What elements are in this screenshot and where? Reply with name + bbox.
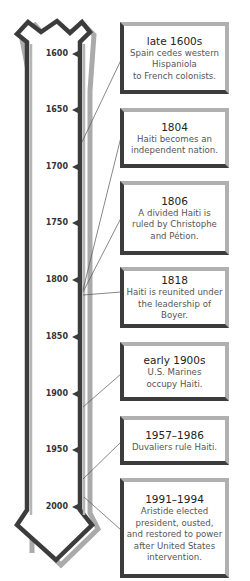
tick-label-1850: 1850 [38,332,68,342]
event-description: A divided Haiti is ruled by Christophe a… [126,208,223,243]
event-date: 1818 [126,274,223,287]
event-box-early-1900s: early 1900s U.S. Marines occupy Haiti. [120,342,229,401]
event-description: U.S. Marines occupy Haiti. [126,367,223,390]
event-box-1806: 1806 A divided Haiti is ruled by Christo… [120,181,229,255]
event-date: 1806 [126,195,223,208]
event-description: Haiti becomes an independent nation. [126,134,223,157]
tick-label-1900: 1900 [38,389,68,399]
event-description: Duvaliers rule Haiti. [126,442,223,454]
event-date: early 1900s [126,354,223,367]
event-description: Spain cedes western Hispaniola to French… [126,48,223,83]
event-box-late-1600s: late 1600s Spain cedes western Hispaniol… [120,22,229,94]
event-box-1804: 1804 Haiti becomes an independent nation… [120,108,229,168]
event-date: late 1600s [126,35,223,48]
tick-label-1750: 1750 [38,218,68,228]
event-box-1991-1994: 1991–1994 Aristide elected president, ou… [120,478,229,578]
event-box-1818: 1818 Haiti is reunited under the leaders… [120,267,229,328]
timeline-bar-outline [17,21,92,560]
tick-label-2000: 2000 [38,502,68,512]
event-date: 1804 [126,121,223,134]
tick-label-1700: 1700 [38,162,68,172]
event-description: Aristide elected president, ousted, and … [126,506,223,564]
tick-label-1650: 1650 [38,105,68,115]
event-date: 1991–1994 [126,493,223,506]
event-description: Haiti is reunited under the leadership o… [126,287,223,322]
event-box-1957-1986: 1957–1986 Duvaliers rule Haiti. [120,416,229,465]
event-date: 1957–1986 [126,429,223,442]
tick-label-1950: 1950 [38,445,68,455]
tick-label-1800: 1800 [38,275,68,285]
tick-label-1600: 1600 [38,49,68,59]
